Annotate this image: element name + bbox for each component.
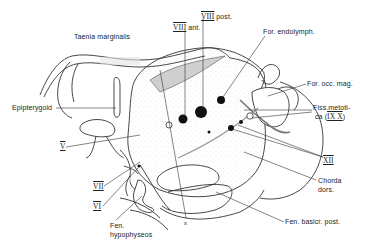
viii-ant-foramen (179, 115, 188, 124)
label-for-endolymph: For. endolymph. (263, 28, 315, 36)
label-taenia-marginalis: Taenia marginalis (74, 33, 130, 41)
label-fiss-metotica-suffix: ) (343, 113, 345, 120)
label-chorda-dors-line1: Chorda (318, 177, 342, 185)
label-viii-post: VIII post. (201, 13, 232, 21)
label-fen-hypophyseos-line2: hypophyseos (110, 231, 152, 239)
label-x-mark: x (184, 219, 187, 227)
label-fiss-metotica-prefix: ca ( (315, 113, 327, 120)
label-viii-post-text: post. (216, 13, 232, 20)
anatomical-figure: Taenia marginalis Epipterygoid V VII VI … (0, 0, 367, 248)
skull-drawing (0, 0, 367, 248)
label-for-occ-mag: For. occ. mag. (307, 80, 353, 88)
label-nerve-vii: VII (93, 183, 104, 191)
label-nerve-v: V (60, 143, 66, 151)
label-viii-post-numeral: VIII (201, 12, 214, 21)
nerve-vi-foramen (137, 164, 140, 167)
label-epipterygoid: Epipterygoid (12, 104, 52, 112)
endolymph-foramen (217, 96, 225, 104)
xii-foramen-a (228, 125, 234, 131)
xii-foramen-b (239, 120, 243, 124)
label-chorda-dors-line2: dors. (318, 186, 334, 194)
label-fiss-metotica-nerves: IX X (327, 112, 343, 121)
viii-post-foramen (195, 106, 207, 118)
label-nerve-xii: XII (323, 157, 334, 165)
label-fen-hypophyseos-line1: Fen. (110, 222, 124, 230)
label-nerve-vi: VI (93, 203, 101, 211)
label-fen-basicr-post: Fen. basicr. post. (285, 218, 340, 226)
epipterygoid-shape (114, 77, 120, 117)
label-viii-ant: VIII ant. (173, 24, 200, 32)
label-viii-ant-numeral: VIII (173, 23, 186, 32)
label-fiss-metotica-line1: Fiss.metoti- (313, 104, 350, 112)
label-viii-ant-text: ant. (188, 24, 200, 31)
label-fiss-metotica-line2: ca (IX X) (315, 113, 345, 121)
